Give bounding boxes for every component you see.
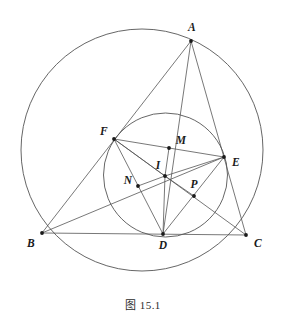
point-dot-N [136, 184, 140, 188]
point-dot-C [244, 233, 248, 237]
point-label-A: A [188, 22, 196, 34]
point-dot-A [189, 39, 193, 43]
side-AB [42, 41, 191, 233]
point-label-F: F [100, 126, 108, 138]
point-label-B: B [27, 238, 35, 250]
point-dot-F [112, 137, 116, 141]
point-label-I: I [156, 160, 161, 172]
point-label-M: M [176, 135, 186, 147]
side-CA [191, 41, 246, 235]
point-label-P: P [190, 179, 197, 191]
point-label-D: D [159, 240, 168, 252]
geometry-canvas [0, 0, 286, 286]
vertex-dot-group [40, 39, 248, 237]
geometry-figure: ABCDEFIMNP 图 15.1 [0, 0, 286, 325]
point-dot-B [40, 231, 44, 235]
radius-IM [165, 148, 169, 176]
cevian-BE [42, 157, 224, 233]
point-dot-D [161, 232, 165, 236]
point-dot-M [167, 146, 171, 150]
figure-caption: 图 15.1 [0, 296, 286, 312]
point-dot-E [222, 155, 226, 159]
point-label-E: E [232, 157, 240, 169]
point-label-C: C [254, 238, 262, 250]
point-dot-I [163, 174, 167, 178]
radius-IN [138, 176, 165, 186]
point-label-N: N [124, 175, 133, 187]
point-dot-P [192, 194, 196, 198]
